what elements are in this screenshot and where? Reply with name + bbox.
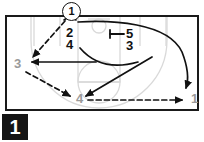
- player-label-4-bottom[interactable]: 4: [76, 92, 83, 105]
- player-marker-1-top[interactable]: 1: [62, 2, 81, 21]
- player-label-1-top: 1: [68, 6, 74, 17]
- figure-number-box: 1: [2, 114, 28, 140]
- figure-number: 1: [9, 117, 20, 137]
- player-label-3-right[interactable]: 3: [126, 39, 133, 52]
- play-diagram-figure: 1 2 4 5 3 3 4 1 1: [0, 0, 204, 142]
- player-label-3-left[interactable]: 3: [14, 57, 21, 70]
- player-label-1-right[interactable]: 1: [191, 92, 198, 105]
- court-canvas: [0, 0, 204, 142]
- player-label-4-top[interactable]: 4: [66, 38, 73, 51]
